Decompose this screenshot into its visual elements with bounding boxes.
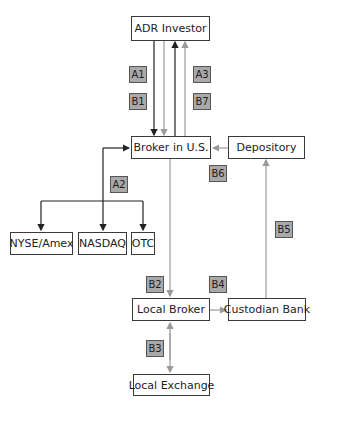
tag-a3: A3 [193,66,211,83]
node-local-broker: Local Broker [132,298,210,321]
node-nasdaq: NASDAQ [78,232,127,255]
node-adr-investor: ADR Investor [131,16,210,41]
node-depository: Depository [228,136,305,159]
tag-b6: B6 [209,165,227,182]
tag-b2: B2 [146,276,164,293]
tag-b1: B1 [129,93,147,110]
node-local-exchange: Local Exchange [133,374,210,396]
tag-b5: B5 [275,221,293,238]
tag-b3: B3 [146,340,164,357]
tag-b4: B4 [209,276,227,293]
flow-arrows [0,0,362,424]
node-otc: OTC [131,232,155,255]
node-broker-us: Broker in U.S. [131,136,211,159]
tag-a1: A1 [129,66,147,83]
tag-b7: B7 [193,93,211,110]
node-custodian-bank: Custodian Bank [228,298,306,321]
node-nyse-amex: NYSE/Amex [10,232,73,255]
tag-a2: A2 [110,176,128,193]
